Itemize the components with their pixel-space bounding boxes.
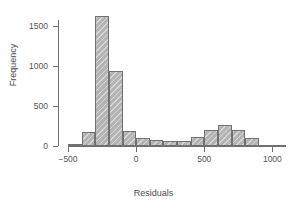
- x-tick-label: −500: [48, 155, 88, 164]
- x-tick-mark: [136, 147, 137, 152]
- y-tick-mark: [53, 146, 58, 147]
- histogram-bar: [136, 138, 150, 146]
- x-tick-mark: [272, 147, 273, 152]
- y-axis-title: Frequency: [8, 15, 18, 115]
- y-tick-label: 0: [0, 142, 48, 151]
- histogram-bar: [191, 137, 205, 146]
- histogram-bar: [82, 132, 96, 146]
- histogram-bar: [123, 131, 137, 146]
- x-tick-mark: [204, 147, 205, 152]
- y-tick-mark: [53, 26, 58, 27]
- histogram-bar: [245, 138, 259, 146]
- y-tick-mark: [53, 66, 58, 67]
- x-tick-label: 1000: [252, 155, 292, 164]
- x-tick-label: 500: [184, 155, 224, 164]
- x-tick-mark: [68, 147, 69, 152]
- x-axis-title: Residuals: [0, 188, 307, 198]
- y-tick-mark: [53, 106, 58, 107]
- histogram-plot: 050010001500 −50005001000 Residuals Freq…: [0, 0, 307, 212]
- histogram-bar: [95, 16, 109, 146]
- y-axis-line: [58, 20, 59, 146]
- x-tick-label: 0: [116, 155, 156, 164]
- histogram-bar: [232, 130, 246, 146]
- histogram-bar: [109, 71, 123, 146]
- histogram-bar: [204, 130, 218, 146]
- histogram-bar: [218, 125, 232, 146]
- x-axis-line: [68, 146, 286, 147]
